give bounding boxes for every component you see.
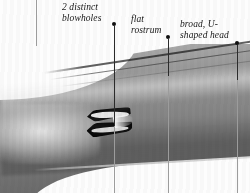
rostrum-lower-rule <box>168 76 169 193</box>
leader-line-blowholes <box>114 26 115 126</box>
annotation-label-rostrum: flat rostrum <box>131 14 171 36</box>
leader-bullet-head <box>235 41 239 45</box>
left-edge-rule <box>36 0 37 46</box>
head-lower-rule <box>237 80 238 193</box>
annotation-label-blowholes: 2 distinct blowholes <box>62 2 114 24</box>
leader-line-head <box>237 45 238 80</box>
leader-line-rostrum <box>168 39 169 76</box>
figure-panel: 2 distinct blowholes flat rostrum broad,… <box>0 0 250 193</box>
annotation-label-head: broad, U- shaped head <box>180 19 234 41</box>
blowhole-lower-rule <box>114 126 115 193</box>
